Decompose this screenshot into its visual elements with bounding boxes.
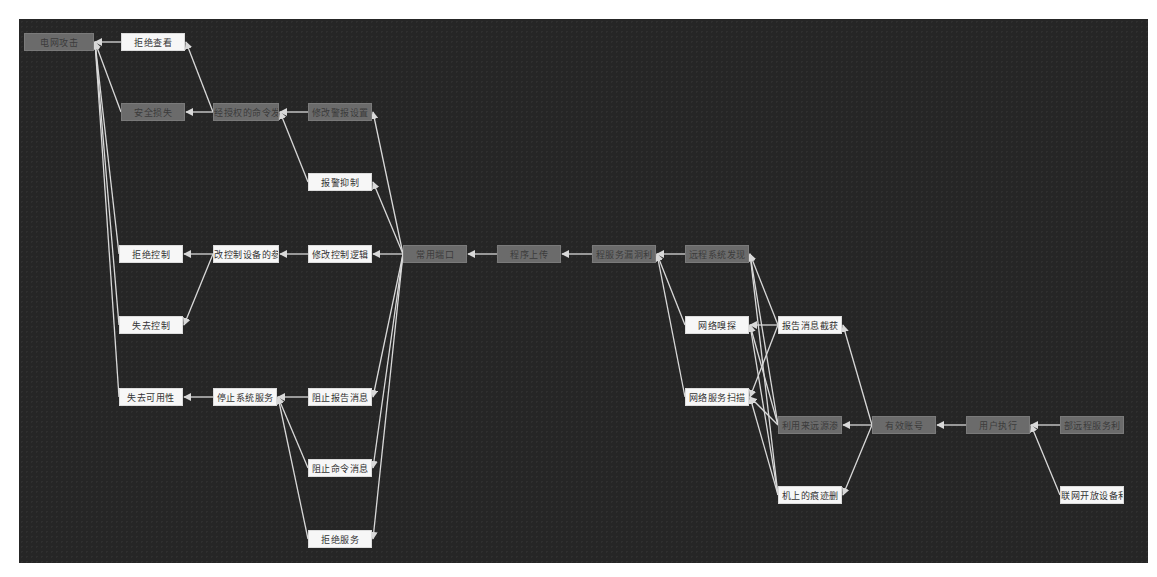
diagram-node[interactable]: 失去可用性	[119, 388, 183, 406]
diagram-node[interactable]: 阻止报告消息	[308, 388, 372, 406]
diagram-node[interactable]: 阻止命令消息	[308, 459, 372, 477]
diagram-node[interactable]: 利用来远源渗	[778, 416, 842, 434]
diagram-canvas	[19, 19, 1148, 563]
diagram-node[interactable]: 经授权的命令发	[213, 103, 279, 121]
diagram-node[interactable]: 修改控制逻辑	[308, 245, 372, 263]
diagram-node[interactable]: 有效账号	[872, 416, 936, 434]
diagram-node[interactable]: 拒绝控制	[119, 245, 183, 263]
diagram-node[interactable]: 失去控制	[119, 316, 183, 334]
diagram-node[interactable]: 部远程服务利	[1060, 416, 1124, 434]
diagram-node[interactable]: 报告消息截获	[778, 316, 842, 334]
diagram-node[interactable]: 网络服务扫描	[685, 388, 749, 406]
diagram-node[interactable]: 报警抑制	[308, 173, 372, 191]
diagram-node[interactable]: 程服务漏洞利	[592, 245, 656, 263]
diagram-node[interactable]: 远程系统发现	[685, 245, 749, 263]
diagram-node[interactable]: 修改警报设置	[308, 103, 372, 121]
diagram-node[interactable]: 网络嗅探	[685, 316, 749, 334]
diagram-node[interactable]: 联网开放设备利	[1060, 486, 1124, 504]
diagram-node[interactable]: 常用端口	[403, 245, 467, 263]
diagram-node[interactable]: 停止系统服务	[213, 388, 277, 406]
diagram-node[interactable]: 程序上传	[497, 245, 561, 263]
diagram-node[interactable]: 机上的痕迹删	[778, 486, 842, 504]
diagram-node[interactable]: 用户执行	[966, 416, 1030, 434]
diagram-node[interactable]: 改控制设备的参	[213, 245, 279, 263]
diagram-node[interactable]: 拒绝服务	[308, 530, 372, 548]
diagram-node[interactable]: 电网攻击	[24, 33, 94, 51]
diagram-node[interactable]: 拒绝查看	[121, 33, 185, 51]
diagram-node[interactable]: 安全损失	[121, 103, 185, 121]
